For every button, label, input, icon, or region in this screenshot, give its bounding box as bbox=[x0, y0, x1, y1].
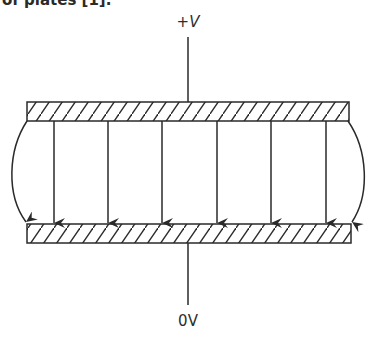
bottom-plate bbox=[27, 224, 351, 243]
ground-terminal-label: 0V bbox=[178, 312, 199, 330]
voltage-symbol: V bbox=[189, 13, 201, 31]
top-plate bbox=[27, 102, 349, 121]
parallel-plate-diagram: +V 0V bbox=[0, 0, 366, 340]
plus-sign: + bbox=[177, 13, 190, 31]
field-lines bbox=[12, 121, 364, 223]
right-fringe-field-arrow bbox=[348, 121, 364, 222]
left-fringe-field-arrow bbox=[12, 121, 27, 222]
positive-terminal-label: +V bbox=[177, 13, 202, 31]
